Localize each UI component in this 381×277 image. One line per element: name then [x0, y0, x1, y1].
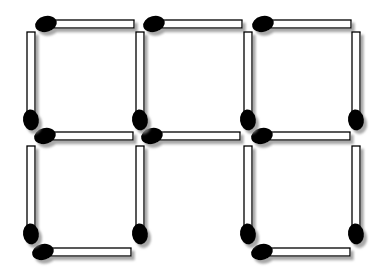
puzzle-svg — [0, 0, 381, 277]
match-mid-edge-col2 — [139, 126, 240, 147]
match-vertical-x2-row2 — [131, 146, 150, 246]
match-head — [239, 222, 258, 245]
match-stick — [136, 32, 144, 114]
match-head — [250, 14, 275, 35]
match-stick — [49, 248, 131, 256]
match-head — [22, 222, 41, 245]
match-head — [22, 108, 41, 131]
match-stick — [268, 132, 350, 140]
match-top-edge-col1 — [33, 14, 134, 35]
match-head — [131, 108, 150, 131]
match-stick — [51, 132, 133, 140]
match-vertical-x4-row1 — [347, 32, 366, 132]
match-top-edge-col2 — [141, 14, 242, 35]
match-head — [131, 222, 150, 245]
match-stick — [27, 146, 35, 228]
match-stick — [27, 32, 35, 114]
match-bottom-edge-col3 — [249, 242, 350, 263]
match-head — [347, 108, 366, 131]
match-head — [249, 126, 274, 147]
match-head — [33, 14, 58, 35]
match-vertical-x2-row1 — [131, 32, 150, 132]
match-head — [32, 126, 57, 147]
match-stick — [244, 146, 252, 228]
match-top-edge-col3 — [250, 14, 351, 35]
match-stick — [160, 20, 242, 28]
match-vertical-x1-row1 — [22, 32, 41, 132]
match-vertical-x1-row2 — [22, 146, 41, 246]
match-stick — [352, 146, 360, 228]
match-stick — [268, 248, 350, 256]
match-head — [249, 242, 274, 263]
match-mid-edge-col3 — [249, 126, 350, 147]
match-head — [347, 222, 366, 245]
match-stick — [158, 132, 240, 140]
matchstick-puzzle — [0, 0, 381, 277]
match-stick — [352, 32, 360, 114]
match-vertical-x3-row2 — [239, 146, 258, 246]
match-stick — [269, 20, 351, 28]
match-vertical-x3-row1 — [239, 32, 258, 132]
match-mid-edge-col1 — [32, 126, 133, 147]
match-head — [239, 108, 258, 131]
match-stick — [244, 32, 252, 114]
match-head — [141, 14, 166, 35]
match-stick — [136, 146, 144, 228]
match-vertical-x4-row2 — [347, 146, 366, 246]
match-bottom-edge-col1 — [30, 242, 131, 263]
match-stick — [52, 20, 134, 28]
match-head — [30, 242, 55, 263]
